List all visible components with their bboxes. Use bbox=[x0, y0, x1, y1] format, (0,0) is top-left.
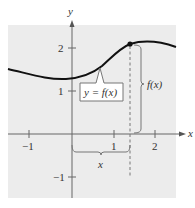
curve-point bbox=[127, 41, 132, 46]
x-tick-label-neg1: −1 bbox=[22, 140, 34, 152]
y-axis-arrow-icon bbox=[70, 20, 75, 27]
x-tick-label-2: 2 bbox=[152, 140, 158, 152]
x-tick-label-1: 1 bbox=[111, 140, 117, 152]
y-tick-label-1: 1 bbox=[58, 85, 64, 97]
function-graph: x −1 1 2 y 2 1 −1 f(x) x y = f(x) bbox=[0, 0, 195, 208]
fx-bracket-label: f(x) bbox=[147, 78, 163, 91]
y-tick-label-2: 2 bbox=[58, 42, 64, 54]
x-bracket-label: x bbox=[97, 158, 103, 170]
x-axis-arrow-icon bbox=[179, 132, 186, 137]
plot-background bbox=[8, 25, 176, 198]
callout-label: y = f(x) bbox=[83, 86, 117, 99]
y-axis-label: y bbox=[67, 5, 73, 17]
y-tick-label-neg1: −1 bbox=[53, 171, 65, 183]
x-axis-label: x bbox=[187, 127, 193, 139]
